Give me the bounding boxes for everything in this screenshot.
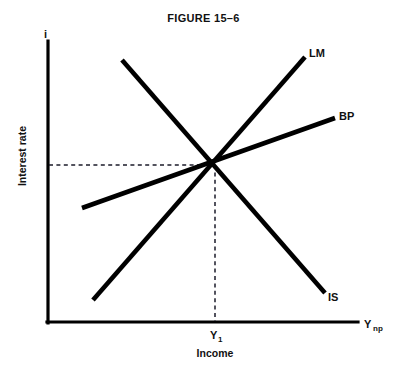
x-tick-symbol: Y [210,329,218,341]
bp-curve-label: BP [339,110,354,122]
y-axis-symbol: i [44,28,47,40]
bp-curve [82,118,335,208]
x-axis-label: Income [197,347,234,359]
x-axis-end-symbol: Y [364,318,372,330]
plot-area: LM BP IS i Y np Y 1 Income [0,0,407,369]
is-curve-label: IS [328,291,338,303]
lm-curve [93,57,305,300]
figure-container: FIGURE 15–6 Interest rate LM BP IS i Y n… [0,0,407,369]
is-curve [122,60,325,293]
x-tick-subscript: 1 [218,335,223,344]
x-axis-end-subscript: np [373,324,383,333]
lm-curve-label: LM [309,47,325,59]
